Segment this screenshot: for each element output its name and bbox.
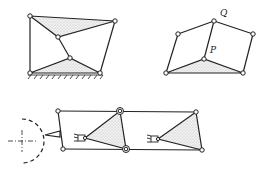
lower-ternary-link [30, 58, 100, 73]
left-link [58, 111, 63, 149]
joint [251, 32, 255, 36]
joint [124, 147, 128, 151]
joint [61, 147, 65, 151]
joint [28, 14, 32, 18]
top-bar [58, 111, 196, 112]
joint [28, 71, 32, 75]
joint [56, 35, 60, 39]
label-P: P [209, 45, 217, 55]
joint [83, 136, 86, 139]
mechanism-diagram: Q P [0, 0, 265, 176]
triangle-link-1 [85, 111, 126, 149]
mechanism-1 [28, 14, 117, 79]
coupler-link [45, 131, 60, 137]
joint [176, 32, 180, 36]
joint [241, 71, 245, 75]
label-Q: Q [220, 8, 228, 18]
joint-Q [212, 19, 216, 23]
joint [68, 56, 72, 60]
joint [200, 148, 204, 152]
triangle-link-2 [158, 112, 202, 150]
joint [194, 110, 198, 114]
joint [164, 71, 168, 75]
bottom-bar [63, 149, 202, 150]
ground-hatch [28, 75, 103, 79]
joint [98, 71, 102, 75]
joint [113, 19, 117, 23]
joint [118, 109, 122, 113]
right-link [100, 21, 115, 73]
middle-link [58, 37, 70, 58]
mechanism-2: Q P [164, 8, 255, 75]
joint [56, 109, 60, 113]
joint-P [202, 57, 206, 61]
joint [156, 137, 159, 140]
mechanism-3 [8, 108, 204, 164]
upper-ternary-link [30, 16, 115, 37]
